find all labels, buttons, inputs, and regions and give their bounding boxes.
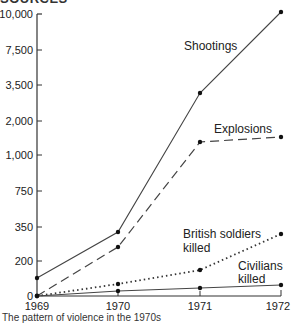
label-explosions: Explosions — [214, 122, 272, 136]
origin-point — [35, 294, 40, 299]
x-ticks: 1969 1970 1971 1972 — [25, 290, 290, 312]
label-soldiers-line1: British soldiers — [183, 227, 261, 241]
y-tick-label: 2,000 — [5, 115, 33, 127]
y-tick-label: 7,500 — [5, 44, 33, 56]
y-tick-label: 3,500 — [5, 79, 33, 91]
y-ticks: 10,000 7,500 3,500 2,000 1,000 750 350 2… — [0, 8, 42, 302]
label-civilians-line2: killed — [238, 272, 265, 286]
y-tick-label: 1,000 — [5, 149, 33, 161]
figure-caption: The pattern of violence in the 1970s — [2, 312, 161, 323]
label-soldiers-line2: killed — [183, 241, 210, 255]
x-tick-label: 1969 — [25, 300, 49, 312]
y-tick-label: 200 — [15, 255, 33, 267]
x-tick-label: 1972 — [266, 300, 290, 312]
x-tick-label: 1970 — [106, 300, 130, 312]
x-tick-label: 1971 — [188, 300, 212, 312]
label-shootings: Shootings — [184, 39, 237, 53]
y-tick-label: 10,000 — [0, 8, 33, 20]
label-civilians-line1: Civilians — [238, 259, 283, 273]
y-tick-label: 350 — [15, 221, 33, 233]
y-tick-label: 750 — [15, 185, 33, 197]
